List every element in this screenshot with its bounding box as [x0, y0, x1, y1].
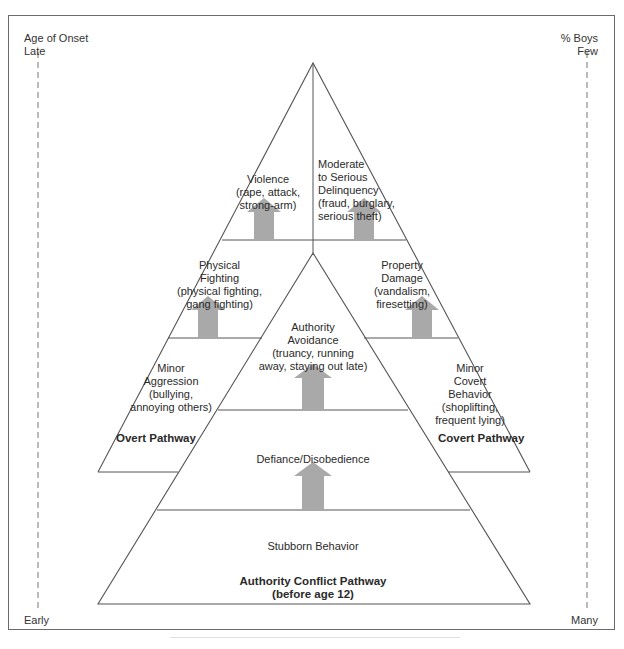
level-property-damage: Property Damage (vandalism, firesetting)	[360, 259, 444, 311]
level-title: Physical	[162, 259, 277, 272]
level-title: Violence	[228, 173, 308, 186]
overt-pathway-label: Overt Pathway	[116, 432, 196, 445]
level-stubborn-behavior: Stubborn Behavior	[213, 540, 413, 553]
level-title: Damage	[360, 272, 444, 285]
level-examples: strong-arm)	[228, 199, 308, 212]
level-examples: gang fighting)	[162, 298, 277, 311]
right-axis-bottom-label: Many	[571, 614, 598, 627]
level-examples: (rape, attack,	[228, 186, 308, 199]
left-axis-top-label: Late	[24, 45, 45, 58]
level-serious-delinquency: Moderate to Serious Delinquency (fraud, …	[318, 158, 395, 223]
level-examples: firesetting)	[360, 298, 444, 311]
level-title: Avoidance	[253, 334, 373, 347]
right-axis-top-label: Few	[577, 45, 598, 58]
level-authority-avoidance: Authority Avoidance (truancy, running aw…	[253, 321, 373, 373]
left-axis-title: Age of Onset	[24, 32, 88, 45]
level-title: Minor	[427, 362, 513, 375]
level-title: Aggression	[121, 375, 221, 388]
arrow-up-icon	[294, 462, 332, 510]
level-title: Moderate	[318, 158, 395, 171]
level-minor-aggression: Minor Aggression (bullying, annoying oth…	[121, 362, 221, 414]
caption-remnant	[170, 637, 460, 638]
level-title: to Serious	[318, 171, 395, 184]
level-title: Covert	[427, 375, 513, 388]
level-title: Delinquency	[318, 184, 395, 197]
level-minor-covert-behavior: Minor Covert Behavior (shoplifting, freq…	[427, 362, 513, 427]
level-examples: serious theft)	[318, 210, 395, 223]
level-examples: (vandalism,	[360, 285, 444, 298]
level-examples: (bullying,	[121, 388, 221, 401]
pathway-subtitle: (before age 12)	[213, 588, 413, 601]
left-axis-bottom-label: Early	[24, 614, 49, 627]
level-title: Property	[360, 259, 444, 272]
level-examples: (truancy, running	[253, 347, 373, 360]
pathway-name: Authority Conflict Pathway	[213, 575, 413, 588]
right-axis-title: % Boys	[561, 32, 598, 45]
level-title: Behavior	[427, 388, 513, 401]
covert-pathway-label: Covert Pathway	[438, 432, 524, 445]
level-title: Authority	[253, 321, 373, 334]
level-title: Minor	[121, 362, 221, 375]
level-examples: frequent lying)	[427, 414, 513, 427]
authority-conflict-pathway-label: Authority Conflict Pathway (before age 1…	[213, 575, 413, 601]
level-examples: annoying others)	[121, 401, 221, 414]
level-examples: (shoplifting,	[427, 401, 513, 414]
level-examples: away, staying out late)	[253, 360, 373, 373]
level-violence: Violence (rape, attack, strong-arm)	[228, 173, 308, 212]
level-examples: (physical fighting,	[162, 285, 277, 298]
level-title: Fighting	[162, 272, 277, 285]
level-examples: (fraud, burglary,	[318, 197, 395, 210]
level-physical-fighting: Physical Fighting (physical fighting, ga…	[162, 259, 277, 311]
level-defiance-disobedience: Defiance/Disobedience	[213, 453, 413, 466]
